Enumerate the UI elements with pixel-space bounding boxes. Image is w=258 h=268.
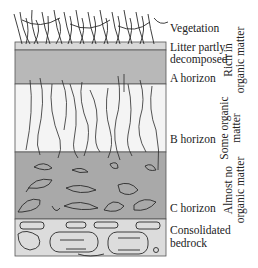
label-c-horizon: C horizon [170, 202, 216, 214]
label-almost-no-organic-line1: Almost no [222, 150, 234, 230]
label-litter-line1: Litter partly [170, 41, 225, 53]
label-bedrock-line2: bedrock [170, 237, 207, 249]
label-almost-no-organic: Almost no organic matter [222, 150, 246, 230]
soil-profile-diagram: Vegetation Litter partly decomposed A ho… [0, 0, 258, 268]
label-litter-line2: decomposed [170, 53, 227, 65]
label-almost-no-organic-line2: organic matter [234, 150, 246, 230]
label-a-horizon: A horizon [170, 72, 216, 84]
a-horizon-layer [15, 50, 166, 84]
label-b-horizon: B horizon [170, 133, 216, 145]
bedrock-layer [15, 219, 166, 256]
vegetation-strokes [14, 10, 168, 44]
label-vegetation: Vegetation [170, 22, 219, 34]
